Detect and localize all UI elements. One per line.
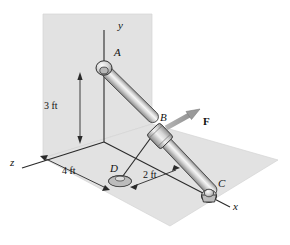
support-d (109, 176, 132, 187)
point-label-b: B (160, 112, 167, 123)
axis-label-z: z (10, 157, 14, 168)
dimension-label-4ft: 4 ft (62, 166, 76, 176)
force-arrow-f (166, 109, 200, 128)
dimension-label-2ft: 2 ft (143, 170, 157, 180)
statics-figure: y z x A B C D 3 ft 4 ft 2 ft F (0, 0, 290, 245)
figure-canvas (0, 0, 290, 245)
force-label-f: F (203, 116, 210, 127)
joint-c (201, 189, 216, 202)
axis-label-x: x (233, 201, 238, 212)
point-label-d: D (110, 163, 118, 174)
dimension-label-3ft: 3 ft (44, 101, 58, 111)
point-label-c: C (218, 178, 225, 189)
axis-label-y: y (118, 20, 123, 31)
joint-a (96, 61, 112, 75)
point-label-a: A (114, 47, 121, 58)
